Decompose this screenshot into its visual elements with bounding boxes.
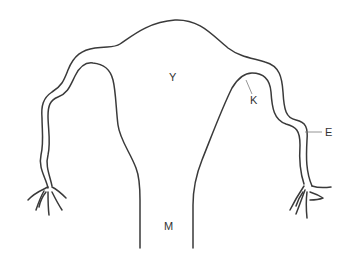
left-fimbriae (28, 187, 66, 215)
label-e: E (325, 126, 332, 138)
inner-contour-right (193, 73, 304, 248)
leader-k (246, 80, 252, 94)
outer-contour (40, 20, 312, 188)
uterus-diagram: Y K E M (0, 0, 352, 262)
right-fimbriae (290, 186, 331, 218)
label-m: M (164, 220, 173, 232)
label-y: Y (169, 71, 177, 83)
label-k: K (250, 94, 258, 106)
inner-contour-left (47, 63, 140, 248)
